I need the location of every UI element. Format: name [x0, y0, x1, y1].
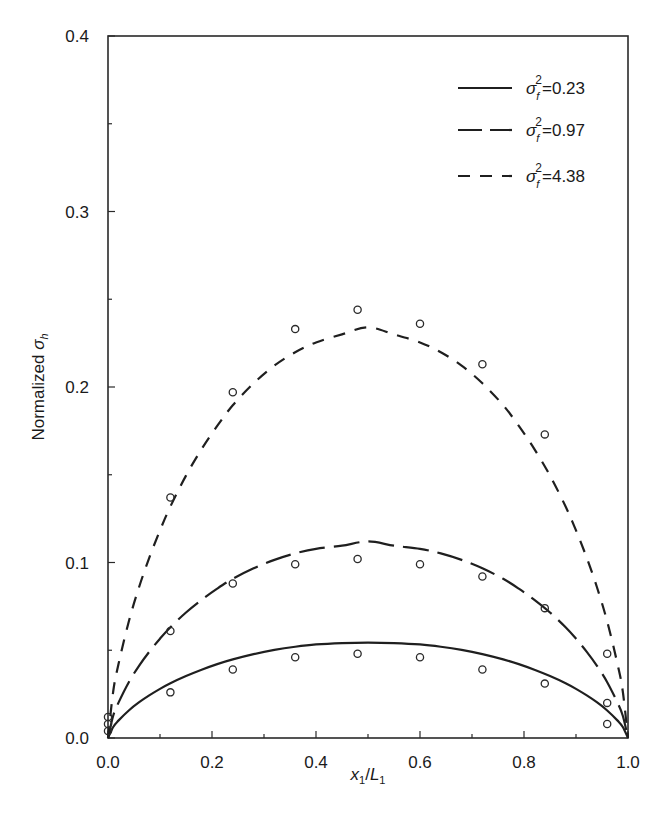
series-curve-solid [108, 643, 628, 738]
data-point-marker [229, 389, 236, 396]
data-point-marker [416, 654, 423, 661]
x-axis-label: x1/L1 [350, 765, 386, 786]
data-point-marker [604, 699, 611, 706]
y-tick-label: 0.4 [65, 27, 89, 46]
svg-text:σf2=0.97: σf2=0.97 [526, 115, 585, 144]
data-point-marker [604, 720, 611, 727]
svg-text:σf2=0.23: σf2=0.23 [526, 73, 585, 102]
x-tick-label: 0.2 [200, 753, 224, 772]
data-point-marker [292, 561, 299, 568]
data-point-marker [479, 361, 486, 368]
plot-frame [108, 36, 628, 738]
x-tick-label: 1.0 [616, 753, 640, 772]
data-point-marker [541, 431, 548, 438]
y-tick-label: 0.0 [65, 729, 89, 748]
data-point-marker [354, 306, 361, 313]
data-point-marker [292, 654, 299, 661]
chart: 0.00.20.40.60.81.00.00.10.20.30.4 x1/L1 … [0, 0, 666, 831]
data-point-marker [541, 680, 548, 687]
legend-item: σf2=0.97 [458, 115, 585, 144]
y-tick-label: 0.2 [65, 378, 89, 397]
legend-item: σf2=4.38 [458, 161, 585, 190]
series-curve-long-dash [108, 541, 628, 738]
data-point-marker [416, 320, 423, 327]
y-tick-label: 0.3 [65, 203, 89, 222]
data-point-marker [479, 573, 486, 580]
y-axis-label: Normalized σh [29, 333, 50, 440]
data-point-marker [229, 580, 236, 587]
x-tick-label: 0.8 [512, 753, 536, 772]
data-point-marker [292, 325, 299, 332]
data-point-marker [416, 561, 423, 568]
axis-ticks [108, 36, 628, 738]
x-tick-label: 0.6 [408, 753, 432, 772]
y-tick-label: 0.1 [65, 554, 89, 573]
legend: σf2=0.23 σf2=0.97 σf2=4.38 [458, 73, 585, 190]
data-point-marker [229, 666, 236, 673]
svg-text:σf2=4.38: σf2=4.38 [526, 161, 585, 190]
data-point-marker [354, 555, 361, 562]
x-tick-label: 0.4 [304, 753, 328, 772]
legend-item: σf2=0.23 [458, 73, 585, 102]
series-curves [108, 327, 628, 738]
data-point-marker [604, 650, 611, 657]
data-point-marker [167, 689, 174, 696]
data-point-marker [167, 494, 174, 501]
data-point-marker [479, 666, 486, 673]
x-tick-label: 0.0 [96, 753, 120, 772]
data-point-marker [354, 650, 361, 657]
